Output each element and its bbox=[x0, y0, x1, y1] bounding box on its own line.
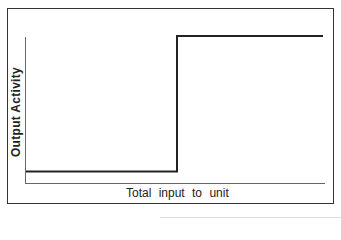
step-curve bbox=[26, 36, 323, 172]
divider bbox=[160, 217, 341, 218]
y-axis-label: Output Activity bbox=[9, 67, 23, 157]
x-axis-label: Total input to unit bbox=[126, 186, 229, 200]
